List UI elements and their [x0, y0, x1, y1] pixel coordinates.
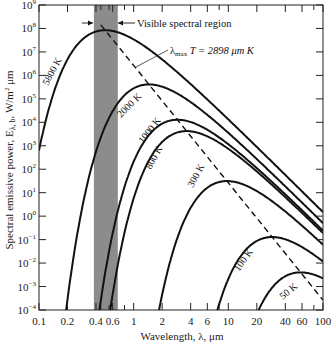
blackbody-spectral-chart: 0.10.20.40.6124610204060100 109108107106… [0, 0, 336, 345]
y-tick-label: 102 [22, 162, 37, 175]
x-tick-label: 0.6 [106, 315, 120, 327]
curve-label-2000k: 2000 K [115, 90, 144, 119]
x-tick-label: 100 [315, 315, 332, 327]
y-tick-label: 10−2 [18, 256, 37, 269]
wien-sub: max [175, 50, 188, 58]
y-tick-label: 100 [22, 209, 37, 222]
x-tick-label: 20 [251, 315, 263, 327]
curve-label-300k: 300 K [185, 161, 207, 189]
svg-text:λmax T = 2898 μm K: λmax T = 2898 μm K [170, 45, 255, 58]
curve-label-100k: 100 K [232, 246, 256, 273]
y-axis-title: Spectral emissive power, Eλ, b, W/m2 μm [3, 70, 17, 250]
y-tick-label: 10−3 [18, 280, 37, 293]
planck-curves [39, 30, 323, 316]
curve-label-50k: 50 K [277, 280, 300, 302]
y-tick-label: 101 [22, 186, 37, 199]
x-axis-title: Wavelength, λ, μm [140, 330, 223, 342]
visible-region-label: Visible spectral region [137, 18, 232, 29]
y-tick-label: 109 [22, 0, 37, 11]
curve-300k [158, 181, 323, 314]
curve-label-800k: 800 K [143, 143, 165, 171]
y-tick-label: 10−1 [18, 233, 37, 246]
y-tick-label: 104 [22, 115, 37, 128]
y-tick-label: 107 [22, 45, 37, 58]
x-tick-label: 0.2 [61, 315, 75, 327]
x-tick-label: 1 [131, 315, 137, 327]
x-tick-label: 4 [188, 315, 194, 327]
curve-label-1000k: 1000 K [136, 114, 163, 145]
x-tick-label: 6 [205, 315, 211, 327]
wien-rest: T = 2898 μm K [187, 45, 255, 56]
wien-annotation: λmax T = 2898 μm K [136, 45, 255, 67]
x-tick-label: 60 [297, 315, 309, 327]
x-tick-label: 0.1 [32, 315, 46, 327]
y-tick-label: 106 [22, 68, 37, 81]
x-tick-label: 40 [280, 315, 292, 327]
y-tick-label: 103 [22, 139, 37, 152]
curve-label-5800k: 5800 K [40, 55, 64, 87]
x-tick-label: 0.4 [89, 315, 103, 327]
x-tick-label: 2 [159, 315, 165, 327]
x-tick-label: 10 [223, 315, 235, 327]
curve-100k [216, 237, 323, 316]
y-tick-label: 105 [22, 92, 37, 105]
y-tick-label: 108 [22, 21, 37, 34]
